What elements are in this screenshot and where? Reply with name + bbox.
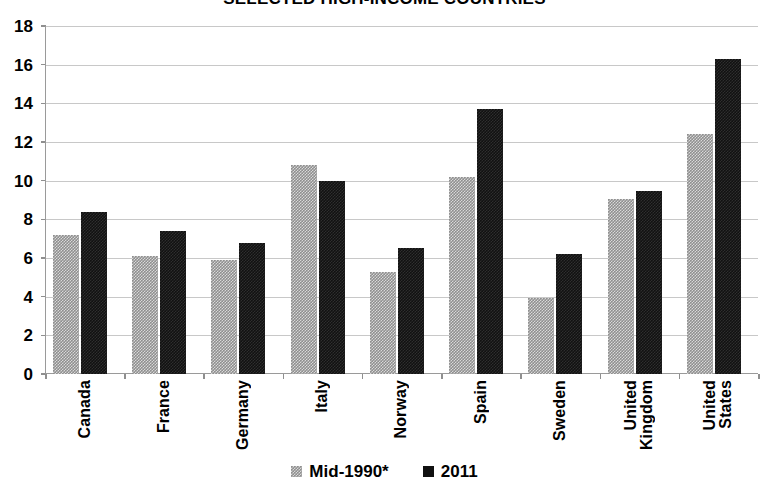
y-axis-tick-label: 6 <box>0 250 33 267</box>
x-axis-category-label: Norway <box>362 380 441 462</box>
x-axis-tick-mark <box>679 374 681 379</box>
bar-chart: SELECTED HIGH-INCOME COUNTRIES 181614121… <box>0 0 769 492</box>
gridline <box>46 219 758 220</box>
x-axis-category-label: Canada <box>45 380 124 462</box>
x-axis-category-line: States <box>718 380 734 429</box>
x-axis-category-label: Germany <box>203 380 282 462</box>
y-axis: 181614121086420 <box>0 26 40 374</box>
y-axis-tick-label: 10 <box>0 172 33 189</box>
x-axis-category-label: UnitedKingdom <box>600 380 679 462</box>
legend-label-mid-1990: Mid-1990* <box>309 463 388 480</box>
chart-title: SELECTED HIGH-INCOME COUNTRIES <box>0 0 769 9</box>
x-axis-category-line: United <box>702 380 718 430</box>
gridline <box>46 26 758 27</box>
x-axis-tick-mark <box>203 374 205 379</box>
x-axis-tick-mark <box>600 374 602 379</box>
legend-item-mid-1990[interactable]: Mid-1990* <box>291 463 388 480</box>
gridline <box>46 103 758 104</box>
x-axis-category-label: Italy <box>283 380 362 462</box>
x-axis-category-line: Germany <box>235 380 251 450</box>
x-axis-category-line: United <box>623 380 639 430</box>
gridline <box>46 258 758 259</box>
x-axis-category-label: France <box>124 380 203 462</box>
gridline <box>46 181 758 182</box>
x-axis-category-line: Norway <box>393 380 409 438</box>
y-axis-tick-label: 0 <box>0 366 33 383</box>
x-axis-category-line: Kingdom <box>639 380 655 450</box>
x-axis: CanadaFranceGermanyItalyNorwaySpainSwede… <box>45 374 758 462</box>
legend-item-2011[interactable]: 2011 <box>423 463 478 480</box>
x-axis-tick-mark <box>124 374 126 379</box>
x-axis-tick-mark <box>441 374 443 379</box>
x-axis-tick-mark <box>283 374 285 379</box>
x-axis-category-label: Sweden <box>520 380 599 462</box>
chart-legend: Mid-1990* 2011 <box>0 463 769 480</box>
gridline <box>46 142 758 143</box>
x-axis-category-line: Italy <box>314 380 330 413</box>
gridlines <box>46 26 758 373</box>
legend-label-2011: 2011 <box>441 463 478 480</box>
y2011-swatch-icon <box>423 466 434 477</box>
x-axis-category-label: Spain <box>441 380 520 462</box>
gridline <box>46 65 758 66</box>
x-axis-category-line: Spain <box>473 380 489 424</box>
y-axis-tick-label: 12 <box>0 134 33 151</box>
gridline <box>46 335 758 336</box>
gridline <box>46 297 758 298</box>
x-axis-category-label: UnitedStates <box>679 380 758 462</box>
y-axis-tick-label: 16 <box>0 56 33 73</box>
y-axis-tick-label: 4 <box>0 288 33 305</box>
x-axis-tick-mark <box>45 374 47 379</box>
y-axis-tick-label: 18 <box>0 18 33 35</box>
x-axis-category-line: Sweden <box>552 380 568 441</box>
plot-area <box>45 26 758 374</box>
y-axis-tick-label: 14 <box>0 95 33 112</box>
x-axis-tick-mark <box>362 374 364 379</box>
y-axis-tick-label: 2 <box>0 327 33 344</box>
x-axis-category-line: France <box>156 380 172 433</box>
x-axis-tick-mark <box>520 374 522 379</box>
x-axis-tick-mark <box>758 374 760 379</box>
x-axis-category-line: Canada <box>77 380 93 438</box>
mid1990-swatch-icon <box>291 466 302 477</box>
y-axis-tick-label: 8 <box>0 211 33 228</box>
